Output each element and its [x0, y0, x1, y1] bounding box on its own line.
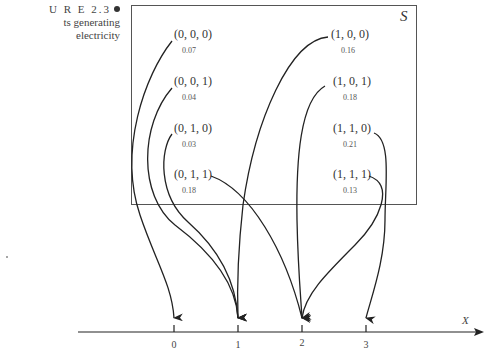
mapping-arrows [0, 0, 484, 352]
axis-tick-label: 2 [296, 337, 308, 348]
axis-tick-label: 3 [360, 339, 372, 350]
axis-tick-label: 0 [168, 339, 180, 350]
arrow-001-to-1 [148, 88, 238, 318]
arrow-100-to-1 [238, 37, 328, 318]
x-axis [78, 325, 478, 332]
axis-label: X [462, 314, 469, 326]
axis-tick-label: 1 [232, 339, 244, 350]
arrow-010-to-1 [164, 134, 238, 318]
stray-dot [6, 256, 8, 258]
arrow-101-to-2 [297, 86, 325, 318]
arrow-110-to-3 [366, 133, 386, 318]
arrow-000-to-0 [132, 41, 174, 318]
arrow-011-to-2 [211, 176, 302, 318]
arrow-111-to-2 [302, 176, 383, 318]
random-variable-mapping-diagram: U R E 2.3 ts generating electricity S (0… [0, 0, 484, 352]
